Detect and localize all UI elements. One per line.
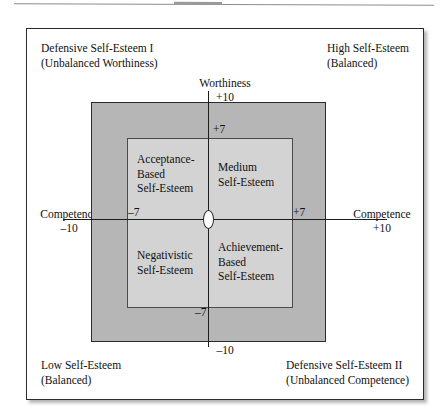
axis-label-right-value: +10 [345, 221, 419, 235]
axis-label-top-name: Worthiness [27, 76, 423, 90]
corner-label-top-left-line1: Defensive Self-Esteem I [41, 42, 153, 54]
corner-label-top-right-line1: High Self-Esteem [327, 42, 409, 54]
quadrant-label-achievement-based-line3: Self-Esteem [218, 270, 274, 282]
quadrant-label-negativistic-self-esteem: Negativistic Self-Esteem [137, 248, 193, 277]
quadrant-label-achievement-based: Achievement- Based Self-Esteem [218, 240, 283, 284]
self-esteem-quadrant-figure: Defensive Self-Esteem I (Unbalanced Wort… [26, 28, 424, 400]
quadrant-label-negativistic-line2: Self-Esteem [137, 264, 193, 276]
origin-marker-ellipse [203, 210, 214, 229]
tick-label-worthiness-minus7: –7 [195, 306, 207, 318]
corner-label-bottom-right-line2: (Unbalanced Competence) [286, 374, 409, 386]
quadrant-label-medium-line1: Medium [218, 161, 257, 173]
corner-label-bottom-left-line2: (Balanced) [41, 374, 91, 386]
corner-label-bottom-left-line1: Low Self-Esteem [41, 359, 121, 371]
corner-label-top-right-line2: (Balanced) [327, 57, 377, 69]
quadrant-label-acceptance-based-line2: Based [137, 168, 165, 180]
tick-label-competence-plus7: +7 [293, 206, 305, 218]
quadrant-label-medium-line2: Self-Esteem [218, 176, 274, 188]
quadrant-label-acceptance-based-line3: Self-Esteem [137, 182, 193, 194]
axis-label-worthiness-positive: Worthiness +10 [27, 76, 423, 104]
tick-label-competence-minus7: –7 [128, 206, 140, 218]
corner-label-bottom-left: Low Self-Esteem (Balanced) [41, 358, 121, 387]
axis-label-bottom-value: –10 [27, 343, 423, 357]
corner-label-top-left-line2: (Unbalanced Worthiness) [41, 57, 158, 69]
quadrant-label-medium-self-esteem: Medium Self-Esteem [218, 160, 274, 189]
quadrant-label-acceptance-based-line1: Acceptance- [137, 153, 194, 165]
tick-label-worthiness-plus7: +7 [213, 123, 225, 135]
page-rule-artifact [14, 3, 434, 6]
quadrant-label-achievement-based-line1: Achievement- [218, 241, 283, 253]
corner-label-bottom-right-line1: Defensive Self-Esteem II [286, 359, 402, 371]
quadrant-label-negativistic-line1: Negativistic [137, 249, 193, 261]
corner-label-bottom-right: Defensive Self-Esteem II (Unbalanced Com… [286, 358, 409, 387]
quadrant-label-acceptance-based: Acceptance- Based Self-Esteem [137, 152, 194, 196]
corner-label-top-right: High Self-Esteem (Balanced) [327, 41, 409, 70]
quadrant-label-achievement-based-line2: Based [218, 256, 246, 268]
horizontal-axis-line [63, 219, 387, 220]
axis-label-competence-positive: Competence +10 [345, 207, 419, 235]
corner-label-top-left: Defensive Self-Esteem I (Unbalanced Wort… [41, 41, 158, 70]
